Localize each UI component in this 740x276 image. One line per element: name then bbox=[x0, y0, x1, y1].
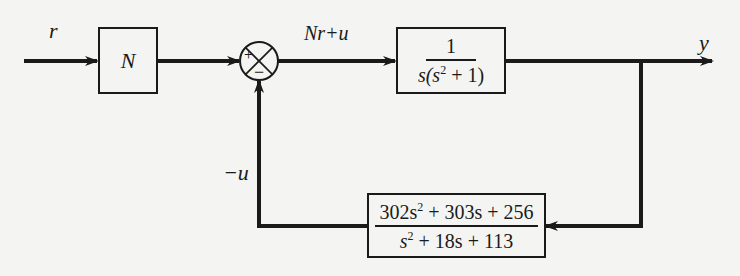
plant-numerator: 1 bbox=[426, 36, 476, 61]
controller-transfer-function: 302s2 + 303s + 256 s2 + 18s + 113 bbox=[375, 201, 537, 250]
plant-block: 1 s(s2 + 1) bbox=[396, 27, 506, 94]
summed-signal-label: Nr+u bbox=[304, 22, 349, 45]
gain-label: N bbox=[121, 48, 136, 74]
input-signal-label: r bbox=[49, 18, 58, 44]
block-diagram: + − r N Nr+u 1 s(s2 + 1) y −u 302s2 + 30… bbox=[0, 0, 740, 276]
feedback-signal-label: −u bbox=[223, 160, 249, 186]
plus-sign: + bbox=[244, 46, 253, 63]
minus-sign: − bbox=[254, 62, 264, 82]
controller-block: 302s2 + 303s + 256 s2 + 18s + 113 bbox=[367, 193, 546, 258]
takeoff-to-controller-arrow bbox=[546, 61, 641, 226]
plant-denominator: s(s2 + 1) bbox=[414, 61, 488, 85]
output-signal-label: y bbox=[699, 30, 709, 56]
controller-numerator: 302s2 + 303s + 256 bbox=[375, 201, 537, 227]
plant-transfer-function: 1 s(s2 + 1) bbox=[414, 36, 488, 85]
gain-block: N bbox=[98, 27, 158, 94]
feedback-arrow bbox=[259, 81, 367, 226]
controller-denominator: s2 + 18s + 113 bbox=[396, 227, 517, 251]
